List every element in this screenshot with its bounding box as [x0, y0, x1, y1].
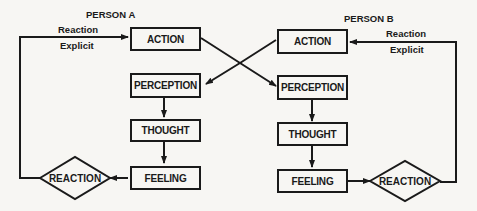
- person-a-title: PERSON A: [86, 9, 135, 20]
- person-a-reaction-node: REACTION: [40, 168, 110, 188]
- person-b-title: PERSON B: [344, 13, 394, 24]
- person-a-explicit-label: Explicit: [60, 40, 94, 51]
- person-b-reaction-label: Reaction: [386, 28, 426, 39]
- person-b-thought-node: THOUGHT: [277, 122, 348, 146]
- person-a-action-node: ACTION: [130, 27, 201, 51]
- person-b-action-node: ACTION: [277, 29, 348, 54]
- person-b-reaction-node: REACTION: [370, 171, 440, 191]
- person-b-feeling-node: FEELING: [277, 169, 348, 193]
- person-a-perception-node: PERCEPTION: [130, 73, 201, 98]
- person-b-explicit-label: Explicit: [390, 44, 424, 55]
- person-a-thought-node: THOUGHT: [130, 119, 201, 142]
- person-b-perception-node: PERCEPTION: [277, 75, 348, 100]
- person-a-feeling-node: FEELING: [130, 166, 201, 190]
- person-a-reaction-label: Reaction: [58, 24, 98, 35]
